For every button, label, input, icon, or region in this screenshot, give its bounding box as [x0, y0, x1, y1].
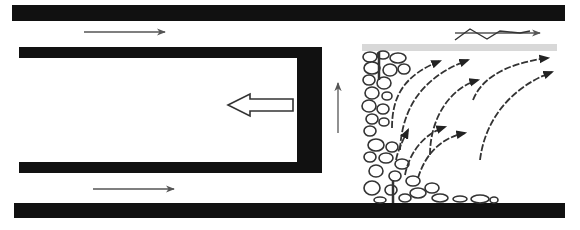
- flow-curve-8: [418, 133, 465, 178]
- gravel-stone: [398, 64, 410, 74]
- gravel-stone: [453, 196, 467, 202]
- caved-gravel-zone: [362, 51, 498, 203]
- diagram-canvas: [0, 0, 580, 230]
- flow-curve-2: [400, 60, 468, 150]
- gravel-stone: [362, 100, 376, 112]
- flow-curve-5: [480, 72, 552, 160]
- gravel-stone: [377, 104, 389, 114]
- gravel-stone: [365, 87, 379, 99]
- airflow-curves: [392, 58, 552, 178]
- gravel-stone: [410, 188, 426, 198]
- gravel-stone: [382, 92, 392, 100]
- gravel-stone: [374, 197, 386, 203]
- gravel-stone: [363, 52, 377, 62]
- support-advance-arrow-icon: [228, 94, 293, 116]
- gravel-stone: [364, 126, 376, 136]
- gravel-stone: [383, 64, 397, 76]
- gravel-stone: [385, 185, 397, 195]
- inner-top-wall: [19, 47, 322, 58]
- gravel-stone: [364, 62, 380, 74]
- gravel-stone: [379, 153, 393, 163]
- turbulent-exit-line: [455, 29, 530, 40]
- gravel-stone: [389, 171, 401, 181]
- roof-dust-band: [362, 44, 557, 51]
- flow-curve-3: [430, 80, 478, 155]
- support-advance-arrow: [228, 94, 293, 116]
- outer-bottom-wall: [14, 203, 565, 218]
- gravel-stone: [390, 53, 406, 63]
- gravel-stone: [395, 159, 409, 169]
- gravel-stone: [364, 152, 376, 162]
- gravel-stone: [425, 183, 439, 193]
- gravel-stone: [471, 195, 489, 203]
- gravel-stone: [368, 139, 384, 151]
- gravel-stone: [379, 118, 389, 126]
- support-face-wall: [297, 47, 322, 173]
- gravel-stone: [386, 142, 398, 152]
- inner-bottom-wall: [19, 162, 322, 173]
- turbulent-exit-arrow-icon: [455, 29, 530, 40]
- tunnel-airflow-diagram: [0, 0, 580, 230]
- flow-curve-7: [405, 127, 445, 175]
- gravel-stone: [364, 181, 380, 195]
- gravel-stone: [399, 194, 411, 202]
- gravel-stone: [363, 75, 375, 85]
- gravel-stone: [432, 194, 448, 202]
- outer-top-wall: [12, 5, 565, 21]
- gravel-stone: [490, 197, 498, 203]
- gravel-stone: [369, 165, 383, 177]
- dust-band: [362, 44, 557, 51]
- gravel-stone: [366, 114, 378, 124]
